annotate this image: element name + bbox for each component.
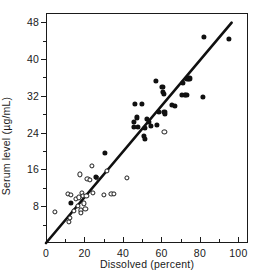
plot-area: 81624324048 020406080100 [46,13,248,243]
x-axis-title: Dissolved (percent) [46,258,248,270]
x-tick-label-20: 20 [78,248,90,259]
y-tick-label-32: 32 [27,91,39,102]
x-tick-label-100: 100 [229,248,247,259]
x-tick-label-0: 0 [43,248,49,259]
y-tick-label-16: 16 [27,164,39,175]
y-axis-title: Serum level (µg/mL) [0,31,18,261]
x-tick-label-60: 60 [155,248,167,259]
y-tick-label-40: 40 [27,54,39,65]
y-tick-label-8: 8 [33,201,39,212]
y-tick-label-24: 24 [27,127,39,138]
y-tick-label-48: 48 [27,17,39,28]
scatter-plot-figure: 81624324048 020406080100 Dissolved (perc… [0,0,260,278]
x-tick-label-40: 40 [117,248,129,259]
x-tick-label-80: 80 [194,248,206,259]
